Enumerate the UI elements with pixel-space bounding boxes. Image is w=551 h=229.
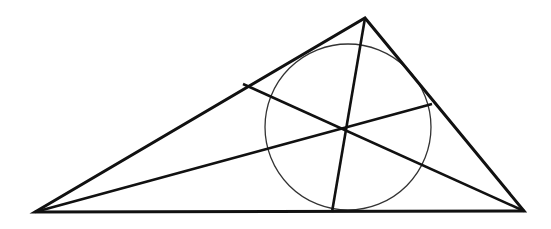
background	[0, 0, 551, 229]
triangle-cevians-diagram	[0, 0, 551, 229]
